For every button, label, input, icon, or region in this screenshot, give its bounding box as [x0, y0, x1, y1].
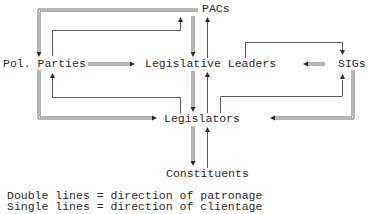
edge-legislators-to-pol-parties [50, 73, 181, 113]
node-legislative-leaders: Legislative Leaders [145, 58, 276, 70]
edge-constituents-to-legislators [205, 127, 210, 168]
edge-pacs-to-leg-leaders [191, 16, 196, 57]
edge-leg-leaders-to-sigs [246, 43, 346, 59]
node-legislators: Legislators [164, 113, 240, 125]
edge-pacs-to-pol-parties [37, 9, 199, 57]
edge-legislators-to-leg-leaders [205, 72, 210, 113]
arrow-up-icon [205, 72, 210, 77]
node-pacs: PACs [202, 3, 230, 15]
arrow-up-icon [178, 17, 183, 22]
arrow-up-icon [50, 73, 55, 78]
edge-sigs-to-leg-leaders [303, 62, 325, 67]
arrow-up-icon [340, 74, 345, 79]
legend-single-lines: Single lines = direction of clientage [7, 201, 262, 212]
edge-pol-parties-to-pacs [53, 17, 184, 56]
edge-pol-parties-to-leg-leaders [88, 62, 135, 67]
edge-legislators-to-constituents [191, 126, 196, 166]
arrow-left-icon [303, 62, 308, 67]
patronage-clientage-diagram: PACs Pol. Parties Legislative Leaders SI… [0, 0, 370, 214]
connector-lines [0, 0, 370, 214]
node-pol-parties: Pol. Parties [3, 58, 86, 70]
node-constituents: Constituents [166, 168, 249, 180]
edge-pol-parties-to-legislators [38, 70, 157, 121]
arrow-up-icon [205, 127, 210, 132]
arrow-right-icon [152, 116, 157, 121]
arrow-down-icon [340, 50, 345, 55]
edge-legislators-to-sigs [221, 74, 346, 113]
edge-leg-leaders-to-pacs [205, 17, 210, 58]
edge-leg-leaders-to-legislators [191, 71, 196, 112]
arrow-left-icon [270, 116, 275, 121]
arrow-up-icon [205, 17, 210, 22]
arrow-down-icon [191, 161, 196, 166]
arrow-right-icon [130, 62, 135, 67]
node-sigs: SIGs [338, 58, 366, 70]
